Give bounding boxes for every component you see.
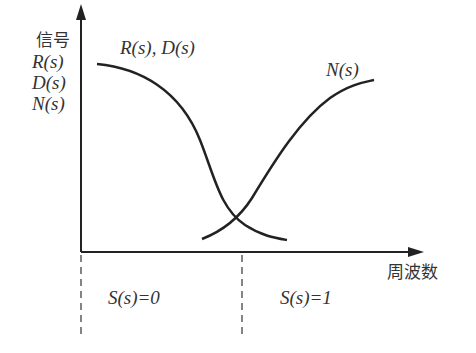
curve-label-n: N(s) bbox=[326, 60, 359, 79]
region-label-right: S(s)=1 bbox=[280, 288, 332, 307]
y-axis-label-n: N(s) bbox=[32, 94, 65, 113]
x-axis-arrow-icon bbox=[408, 247, 424, 257]
filter-diagram bbox=[0, 0, 476, 353]
x-axis-title: 周波数 bbox=[387, 264, 438, 281]
y-axis-label-r: R(s) bbox=[32, 52, 64, 71]
region-label-left: S(s)=0 bbox=[108, 288, 160, 307]
y-axis-arrow-icon bbox=[76, 4, 86, 20]
y-axis-label-d: D(s) bbox=[32, 73, 66, 92]
curve-label-rd: R(s), D(s) bbox=[120, 38, 195, 57]
y-axis-title: 信号 bbox=[36, 32, 70, 49]
curve-n bbox=[202, 80, 374, 239]
curve-rd bbox=[97, 64, 287, 240]
